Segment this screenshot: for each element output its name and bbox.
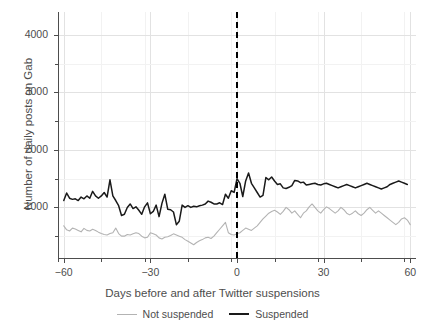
legend-item[interactable]: Suspended: [229, 308, 308, 320]
x-axis-tick-minor: [275, 259, 276, 262]
x-axis-tick-minor: [101, 259, 102, 262]
x-axis-tick-label: 0: [217, 266, 257, 278]
y-axis-tick: [54, 150, 58, 151]
y-axis-tick: [54, 92, 58, 93]
x-axis-tick-minor: [318, 259, 319, 262]
legend-label: Suspended: [255, 308, 308, 320]
y-axis-tick-label: 4000: [0, 28, 48, 40]
y-axis-tick: [54, 35, 58, 36]
x-axis-title: Days before and after Twitter suspension…: [0, 287, 425, 299]
legend-line-icon: [229, 313, 249, 315]
x-axis-tick-minor: [361, 259, 362, 262]
y-axis-tick-label: 1000: [0, 200, 48, 212]
x-axis-tick-label: 30: [304, 266, 344, 278]
y-axis-title: Number of daily posts on Gab: [22, 14, 34, 254]
legend-label: Not suspended: [143, 308, 214, 320]
y-axis-tick: [54, 207, 58, 208]
legend-line-icon: [117, 314, 137, 315]
series-line-suspended: [64, 173, 408, 225]
x-axis-tick: [324, 259, 325, 263]
x-axis-tick: [64, 259, 65, 263]
x-axis-tick-minor: [58, 259, 59, 262]
y-axis-tick-label: 2000: [0, 143, 48, 155]
legend-item[interactable]: Not suspended: [117, 308, 214, 320]
y-axis-tick-minor: [55, 236, 58, 237]
x-axis-tick: [410, 259, 411, 263]
x-axis-tick-minor: [188, 259, 189, 262]
y-axis-tick-minor: [55, 64, 58, 65]
x-axis-tick-label: −30: [130, 266, 170, 278]
x-axis-tick-minor: [145, 259, 146, 262]
y-axis-tick-minor: [55, 121, 58, 122]
series-layer: [58, 12, 416, 258]
x-axis-tick: [237, 259, 238, 263]
x-axis-tick-label: −60: [44, 266, 84, 278]
x-axis-tick: [150, 259, 151, 263]
chart-figure: Number of daily posts on Gab Days before…: [0, 0, 425, 330]
chart-legend: Not suspendedSuspended: [0, 308, 425, 320]
x-axis-tick-label: 60: [390, 266, 425, 278]
x-axis-tick-minor: [231, 259, 232, 262]
y-axis-tick-label: 3000: [0, 85, 48, 97]
y-axis-tick-minor: [55, 179, 58, 180]
x-axis-tick-minor: [404, 259, 405, 262]
